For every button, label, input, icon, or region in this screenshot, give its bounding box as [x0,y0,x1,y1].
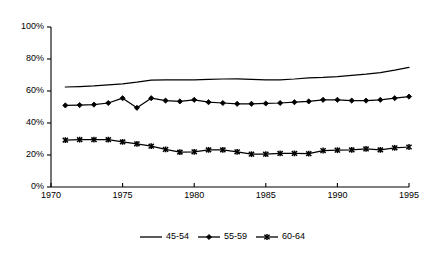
x-tick-label: 1970 [41,190,61,200]
x-tick-label: 1985 [256,190,276,200]
data-point-marker [77,102,82,107]
data-point-marker [249,101,254,106]
x-tick-label: 1980 [184,190,204,200]
y-tick-label: 40% [26,117,44,127]
data-point-marker [220,100,225,105]
x-axis-ticks: 197019751980198519901995 [41,183,419,200]
data-point-marker [278,100,283,105]
data-point-marker [263,101,268,106]
y-tick-label: 80% [26,53,44,63]
data-point-marker [106,100,111,105]
legend-item-45-54: 45-54 [140,231,189,241]
data-point-marker [91,102,96,107]
data-point-marker [206,100,211,105]
x-tick-label: 1990 [327,190,347,200]
legend-label-45-54: 45-54 [166,231,189,241]
data-point-marker [392,96,397,101]
data-point-marker [292,100,297,105]
x-tick-label: 1975 [113,190,133,200]
chart-legend: 45-5455-5960-64 [140,231,305,241]
data-point-marker [192,97,197,102]
legend-item-55-59: 55-59 [198,231,247,241]
chart-container: 0%20%40%60%80%100% 197019751980198519901… [0,0,430,253]
line-chart: 0%20%40%60%80%100% 197019751980198519901… [0,0,430,253]
series-45-54 [65,67,409,87]
y-tick-label: 20% [26,149,44,159]
data-point-marker [349,98,354,103]
y-tick-label: 100% [21,21,44,31]
data-point-marker [177,99,182,104]
x-tick-label: 1995 [399,190,419,200]
data-point-marker [320,97,325,102]
data-point-marker [235,101,240,106]
series-group [63,67,412,157]
series-line-45-54 [65,67,409,87]
data-point-marker [335,97,340,102]
data-point-marker [406,94,411,99]
y-tick-label: 60% [26,85,44,95]
y-axis-ticks: 0%20%40%60%80%100% [21,21,51,191]
legend-label-55-59: 55-59 [224,231,247,241]
legend-item-60-64: 60-64 [256,231,305,241]
series-60-64 [63,137,412,157]
data-point-marker [306,99,311,104]
legend-label-60-64: 60-64 [282,231,305,241]
series-55-59 [63,94,412,110]
data-point-marker [378,97,383,102]
data-point-marker [63,103,68,108]
data-point-marker [206,234,211,239]
data-point-marker [363,98,368,103]
data-point-marker [163,98,168,103]
